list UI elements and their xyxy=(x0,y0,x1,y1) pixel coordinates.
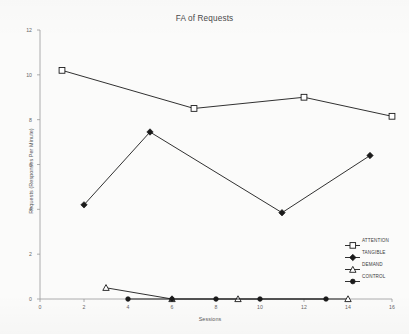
y-tick-label: 10 xyxy=(18,72,32,78)
series-line xyxy=(106,288,348,299)
x-tick-label: 16 xyxy=(385,304,399,310)
legend-marker-circle-filled xyxy=(345,272,360,281)
legend-marker-square-open xyxy=(345,236,360,245)
data-point xyxy=(191,106,197,112)
x-tick-label: 10 xyxy=(253,304,267,310)
data-point xyxy=(59,67,65,73)
data-point xyxy=(126,297,131,302)
y-tick-marks xyxy=(37,30,40,299)
legend-item-control[interactable]: CONTROL xyxy=(345,270,407,282)
legend-label-demand: DEMAND xyxy=(362,262,383,267)
data-point xyxy=(367,152,373,158)
legend-item-demand[interactable]: DEMAND xyxy=(345,258,407,270)
y-tick-label: 4 xyxy=(18,206,32,212)
legend-marker-diamond-filled xyxy=(345,248,360,257)
series-line xyxy=(62,70,392,116)
legend-marker-triangle-open xyxy=(345,260,360,269)
legend-label-control: CONTROL xyxy=(362,274,386,279)
y-tick-label: 8 xyxy=(18,117,32,123)
y-tick-label: 6 xyxy=(18,162,32,168)
x-tick-label: 2 xyxy=(77,304,91,310)
x-tick-label: 12 xyxy=(297,304,311,310)
legend-label-tangible: TANGIBLE xyxy=(362,250,386,255)
series-line xyxy=(84,132,370,213)
x-tick-label: 0 xyxy=(33,304,47,310)
legend-item-tangible[interactable]: TANGIBLE xyxy=(345,246,407,258)
series-tangible xyxy=(81,129,373,216)
data-point xyxy=(258,297,263,302)
axes xyxy=(37,30,392,302)
y-tick-label: 2 xyxy=(18,251,32,257)
legend-item-attention[interactable]: ATTENTION xyxy=(345,234,407,246)
data-point xyxy=(301,94,307,100)
legend-label-attention: ATTENTION xyxy=(362,238,389,243)
y-tick-label: 12 xyxy=(18,27,32,33)
x-tick-label: 8 xyxy=(209,304,223,310)
data-point xyxy=(214,297,219,302)
data-point xyxy=(103,285,109,291)
series-control xyxy=(126,297,329,302)
data-point xyxy=(279,209,285,215)
chart-page: FA of Requests Requests (Responses Per M… xyxy=(0,0,409,334)
x-tick-label: 14 xyxy=(341,304,355,310)
y-tick-label: 0 xyxy=(18,296,32,302)
series-attention xyxy=(59,67,395,119)
data-point xyxy=(389,113,395,119)
data-point xyxy=(324,297,329,302)
data-point xyxy=(170,297,175,302)
chart-legend: ATTENTION TANGIBLE DEMAND xyxy=(345,234,407,282)
x-tick-label: 6 xyxy=(165,304,179,310)
x-tick-label: 4 xyxy=(121,304,135,310)
